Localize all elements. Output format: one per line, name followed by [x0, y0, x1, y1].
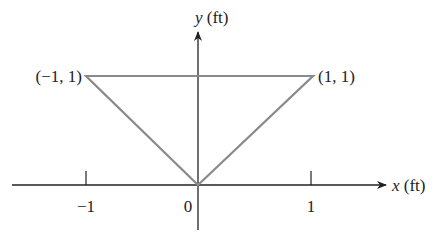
y-axis-label: y (ft) — [193, 8, 229, 27]
x-axis-label: x (ft) — [391, 176, 426, 195]
x-axis-unit: (ft) — [400, 176, 426, 195]
y-axis-var: y — [193, 8, 203, 27]
vertex-label-right: (1, 1) — [318, 67, 355, 86]
diagram-canvas: −1 0 1 (−1, 1) (1, 1) y (ft) x (ft) — [0, 0, 438, 234]
vertex-label-left: (−1, 1) — [36, 67, 82, 86]
y-axis-unit: (ft) — [203, 8, 229, 27]
x-tick-label-0: 0 — [184, 197, 193, 216]
x-tick-label-neg1: −1 — [77, 197, 95, 216]
triangle-shape — [86, 76, 313, 185]
x-tick-label-1: 1 — [307, 197, 316, 216]
